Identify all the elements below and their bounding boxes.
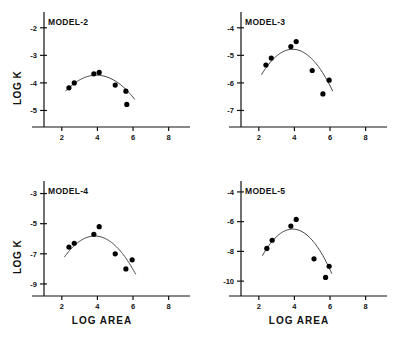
x-axis-label: LOG AREA: [42, 315, 162, 326]
x-axis-label: LOG AREA: [239, 315, 359, 326]
figure-panel-grid: MODEL-2 LOG K 2468-2-3-4-5 MODEL-3 2468-…: [0, 0, 394, 338]
plot-area: 2468-3-5-7-9: [0, 169, 197, 338]
svg-text:8: 8: [167, 302, 171, 311]
panel-model-4: MODEL-4 LOG K LOG AREA 2468-3-5-7-9: [0, 169, 197, 338]
svg-text:-2: -2: [30, 24, 37, 33]
svg-text:6: 6: [131, 302, 135, 311]
svg-text:-7: -7: [30, 250, 37, 259]
panel-title: MODEL-5: [245, 186, 285, 196]
svg-text:-5: -5: [227, 51, 234, 60]
svg-text:4: 4: [95, 302, 100, 311]
svg-text:-9: -9: [30, 280, 37, 289]
svg-text:-6: -6: [227, 217, 234, 226]
svg-text:2: 2: [257, 133, 261, 142]
svg-text:8: 8: [364, 302, 368, 311]
svg-text:4: 4: [292, 302, 297, 311]
y-axis-label: LOG K: [12, 240, 23, 274]
svg-text:2: 2: [257, 302, 261, 311]
svg-text:6: 6: [328, 133, 332, 142]
svg-text:4: 4: [292, 133, 297, 142]
svg-text:-4: -4: [227, 24, 234, 33]
svg-text:-4: -4: [30, 79, 37, 88]
panel-title: MODEL-3: [245, 17, 285, 27]
panel-model-3: MODEL-3 2468-4-5-6-7: [197, 0, 394, 169]
panel-model-5: MODEL-5 LOG AREA 2468-4-6-8-10: [197, 169, 394, 338]
plot-area: 2468-2-3-4-5: [0, 0, 197, 169]
svg-text:2: 2: [60, 302, 64, 311]
panel-title: MODEL-2: [48, 17, 88, 27]
svg-text:8: 8: [167, 133, 171, 142]
svg-text:8: 8: [364, 133, 368, 142]
y-axis-label: LOG K: [12, 71, 23, 105]
svg-text:6: 6: [328, 302, 332, 311]
svg-text:-3: -3: [30, 51, 37, 60]
svg-text:-6: -6: [227, 79, 234, 88]
svg-text:-8: -8: [227, 247, 234, 256]
svg-text:6: 6: [131, 133, 135, 142]
plot-area: 2468-4-5-6-7: [197, 0, 394, 169]
panel-model-2: MODEL-2 LOG K 2468-2-3-4-5: [0, 0, 197, 169]
svg-text:4: 4: [95, 133, 100, 142]
svg-text:-10: -10: [223, 277, 234, 286]
svg-text:-3: -3: [30, 189, 37, 198]
svg-text:-5: -5: [30, 219, 37, 228]
svg-text:-5: -5: [30, 106, 37, 115]
svg-text:-4: -4: [227, 188, 234, 197]
plot-area: 2468-4-6-8-10: [197, 169, 394, 338]
svg-text:-7: -7: [227, 106, 234, 115]
panel-title: MODEL-4: [48, 186, 88, 196]
svg-text:2: 2: [60, 133, 64, 142]
